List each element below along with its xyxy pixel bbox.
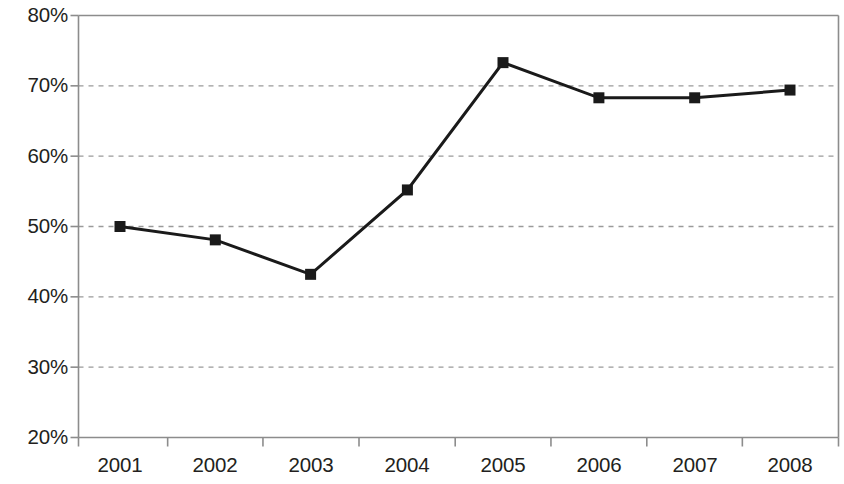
data-point-2005 — [498, 57, 509, 68]
data-point-2008 — [785, 85, 796, 96]
data-point-2007 — [689, 92, 700, 103]
data-point-2002 — [210, 234, 221, 245]
data-series-layer — [115, 57, 796, 280]
data-point-2004 — [402, 184, 413, 195]
plot-area — [0, 0, 844, 484]
data-point-2006 — [593, 92, 604, 103]
data-point-2001 — [115, 221, 126, 232]
gridlines — [79, 86, 839, 367]
data-point-2003 — [305, 269, 316, 280]
line-chart: 80% 70% 60% 50% 40% 30% 20% 2001 2002 20… — [0, 0, 844, 484]
axis-tick-marks — [71, 16, 839, 447]
